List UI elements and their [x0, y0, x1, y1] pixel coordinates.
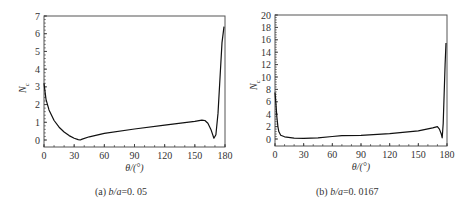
plot-frame — [275, 15, 447, 146]
plot-frame — [44, 16, 225, 147]
y-tick-label: 2 — [35, 99, 40, 110]
y-tick-label: 0 — [35, 135, 40, 146]
y-tick-label: 14 — [261, 47, 271, 58]
x-tick-label: 60 — [99, 150, 109, 161]
y-tick-label: 10 — [261, 72, 271, 83]
y-tick-label: 3 — [35, 81, 40, 92]
chart-panel-a: 030609012015018001234567θ/(°)Nc — [17, 11, 233, 175]
y-axis-label: Nc — [17, 82, 31, 94]
x-tick-label: 90 — [130, 150, 140, 161]
caption-b: (b) b/a=0. 0167 — [316, 186, 379, 197]
y-tick-label: 6 — [266, 96, 271, 107]
y-tick-label: 6 — [35, 28, 40, 39]
x-tick-label: 90 — [356, 149, 366, 160]
y-tick-label: 0 — [266, 134, 271, 145]
y-tick-label: 4 — [35, 64, 40, 75]
y-tick-label: 2 — [266, 121, 271, 132]
x-tick-label: 150 — [411, 149, 426, 160]
data-line-Nc — [275, 43, 446, 138]
x-tick-label: 120 — [157, 150, 172, 161]
x-axis-label: θ/(°) — [125, 162, 144, 174]
x-tick-label: 180 — [440, 149, 455, 160]
y-tick-label: 7 — [35, 11, 40, 22]
y-axis-label: Nc — [248, 79, 262, 91]
x-axis-label: θ/(°) — [352, 161, 371, 173]
x-tick-label: 30 — [69, 150, 79, 161]
x-tick-label: 120 — [382, 149, 397, 160]
x-tick-label: 0 — [273, 149, 278, 160]
y-tick-label: 18 — [261, 22, 271, 33]
chart-panel-b: 030609012015018002468101214161820θ/(°)Nc — [248, 10, 455, 174]
x-tick-label: 60 — [327, 149, 337, 160]
y-tick-label: 4 — [266, 109, 271, 120]
figure-canvas: 030609012015018001234567θ/(°)Nc030609012… — [0, 0, 472, 210]
caption-a: (a) b/a=0. 05 — [95, 186, 147, 197]
x-tick-label: 180 — [218, 150, 233, 161]
y-tick-label: 5 — [35, 46, 40, 57]
y-tick-label: 1 — [35, 117, 40, 128]
y-tick-label: 20 — [261, 10, 271, 21]
y-tick-label: 16 — [261, 34, 271, 45]
data-line-Nc — [44, 27, 224, 140]
y-tick-label: 12 — [261, 59, 271, 70]
x-tick-label: 30 — [299, 149, 309, 160]
x-tick-label: 0 — [42, 150, 47, 161]
x-tick-label: 150 — [187, 150, 202, 161]
y-tick-label: 8 — [266, 84, 271, 95]
